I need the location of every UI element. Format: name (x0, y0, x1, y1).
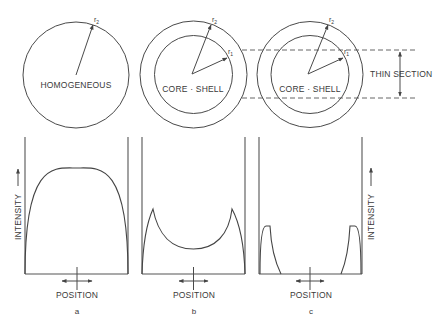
particle-core-circle (155, 36, 233, 114)
particle-label: HOMOGENEOUS (40, 80, 111, 90)
radius-r2-label: r2 (329, 16, 334, 25)
panel-b: r2 r1 CORE · SHELL POSITION b (140, 16, 247, 316)
thin-section-label: THIN SECTION (370, 69, 432, 79)
intensity-profile-right-peak (341, 226, 361, 274)
radius-r2-arrow (76, 25, 93, 75)
particle-label: CORE · SHELL (162, 84, 224, 94)
intensity-profile-dome (25, 168, 128, 274)
intensity-axis-label: INTENSITY (366, 194, 376, 240)
intensity-profile-left-peak (260, 226, 281, 274)
radius-r2-label: r2 (212, 16, 217, 25)
panel-caption: a (75, 307, 80, 316)
svg-text:INTENSITY: INTENSITY (13, 194, 23, 240)
particle-label: CORE · SHELL (279, 84, 341, 94)
panel-caption: c (309, 307, 313, 316)
particle-core-circle (271, 36, 349, 114)
position-label: POSITION (56, 290, 98, 300)
radius-r1-label: r1 (344, 48, 349, 57)
position-label: POSITION (173, 290, 215, 300)
radius-r1-label: r1 (228, 48, 233, 57)
position-label: POSITION (290, 290, 332, 300)
core-shell-diagram: r2 HOMOGENEOUS INTENSITY POSITION a r2 r… (0, 0, 443, 320)
intensity-axis-label: INTENSITY (13, 194, 23, 240)
radius-r2-label: r2 (94, 16, 99, 25)
particle-outer-circle (257, 22, 363, 128)
panel-a: r2 HOMOGENEOUS INTENSITY POSITION a (13, 16, 129, 316)
panel-caption: b (192, 307, 197, 316)
panel-c: r2 r1 CORE · SHELL THIN SECTION INTENSIT… (242, 16, 432, 316)
svg-text:INTENSITY: INTENSITY (366, 194, 376, 240)
particle-outer-circle (140, 21, 247, 128)
intensity-profile-shell-peaks (142, 209, 245, 274)
